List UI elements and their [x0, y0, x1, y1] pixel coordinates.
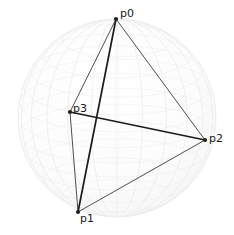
- vertex-label-p1: p1: [80, 212, 94, 225]
- sphere-surface: [18, 19, 216, 217]
- vertex-marker-p3[interactable]: [68, 110, 72, 114]
- vertex-label-p3: p3: [73, 102, 87, 115]
- plot-area: p0p1p2p3: [0, 0, 234, 235]
- vertex-marker-p2[interactable]: [203, 138, 207, 142]
- vertex-marker-p0[interactable]: [114, 17, 118, 21]
- vertex-label-p0: p0: [120, 7, 134, 20]
- vertex-label-p2: p2: [209, 132, 223, 145]
- figure-canvas: p0p1p2p3: [0, 0, 234, 235]
